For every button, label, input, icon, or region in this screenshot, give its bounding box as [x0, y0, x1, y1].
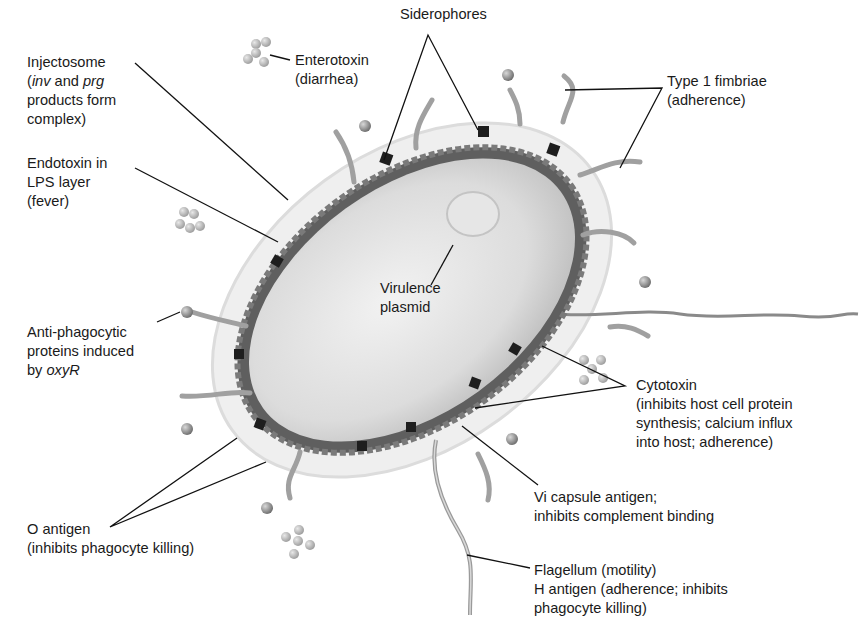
toxin-cluster [281, 525, 315, 559]
label-enterotoxin: Enterotoxin (diarrhea) [295, 51, 369, 89]
label-endotoxin: Endotoxin in LPS layer (fever) [27, 154, 107, 211]
label-virulence-plasmid: Virulence plasmid [380, 279, 441, 317]
label-cytotoxin: Cytotoxin (inhibits host cell protein sy… [636, 376, 793, 452]
label-vi-capsule-antigen: Vi capsule antigen; inhibits complement … [534, 488, 714, 526]
enterotoxin-cluster [243, 37, 271, 67]
flagellum [555, 312, 858, 317]
label-siderophores: Siderophores [400, 5, 487, 24]
label-flagellum: Flagellum (motility) H antigen (adherenc… [534, 561, 728, 618]
toxin-cluster [175, 207, 205, 233]
label-type1-fimbriae: Type 1 fimbriae (adherence) [667, 72, 767, 110]
virulence-plasmid [447, 192, 499, 236]
label-injectosome: Injectosome (inv and prg products form c… [27, 53, 116, 129]
flagellum [434, 440, 471, 615]
cytotoxin-cluster [579, 355, 608, 385]
label-anti-phagocytic-proteins: Anti-phagocytic proteins induced by oxyR [27, 323, 134, 380]
label-o-antigen: O antigen (inhibits phagocyte killing) [27, 520, 194, 558]
